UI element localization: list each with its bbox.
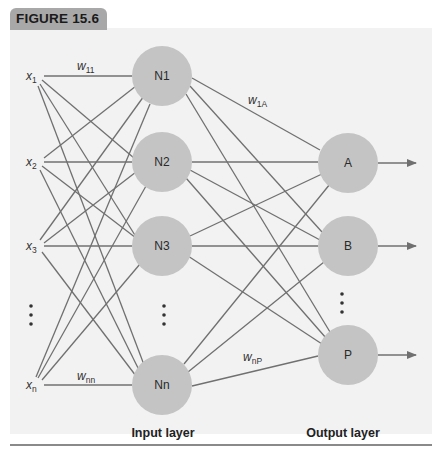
hidden-node-n1: N1 <box>132 46 192 106</box>
hidden-output-edges <box>184 78 330 386</box>
weight-wnn: wnn <box>77 369 95 385</box>
neural-network-diagram: N1 N2 N3 Nn A B P x1 x2 x <box>0 0 444 458</box>
input-x3: x3 <box>25 239 37 255</box>
output-layer: A B P <box>318 133 378 385</box>
svg-text:Nn: Nn <box>154 378 169 392</box>
svg-text:P: P <box>344 348 352 362</box>
output-node-p: P <box>318 325 378 385</box>
hidden-layer: N1 N2 N3 Nn <box>132 46 192 415</box>
svg-text:N1: N1 <box>154 69 170 83</box>
input-x1: x1 <box>25 69 37 85</box>
output-node-b: B <box>318 216 378 276</box>
hidden-node-nn: Nn <box>132 355 192 415</box>
output-ellipsis-icon <box>340 292 344 314</box>
hidden-node-n2: N2 <box>132 132 192 192</box>
output-arrows <box>378 163 416 355</box>
svg-text:A: A <box>344 156 352 170</box>
input-ellipsis-icon <box>29 304 33 326</box>
input-hidden-edges <box>36 76 150 385</box>
output-layer-label: Output layer <box>306 426 380 440</box>
svg-text:N2: N2 <box>154 155 170 169</box>
svg-text:N3: N3 <box>154 239 170 253</box>
weight-wnp: wnP <box>243 350 262 366</box>
hidden-node-n3: N3 <box>132 216 192 276</box>
svg-text:B: B <box>344 239 352 253</box>
input-x2: x2 <box>25 155 37 171</box>
input-xn: xn <box>25 378 37 394</box>
weight-w1a: w1A <box>248 93 267 109</box>
output-node-a: A <box>318 133 378 193</box>
hidden-ellipsis-icon <box>162 304 166 326</box>
bottom-rule <box>10 444 432 446</box>
input-layer-label: Input layer <box>131 426 194 440</box>
input-labels: x1 x2 x3 xn <box>25 69 37 394</box>
weight-w11: w11 <box>77 59 95 75</box>
